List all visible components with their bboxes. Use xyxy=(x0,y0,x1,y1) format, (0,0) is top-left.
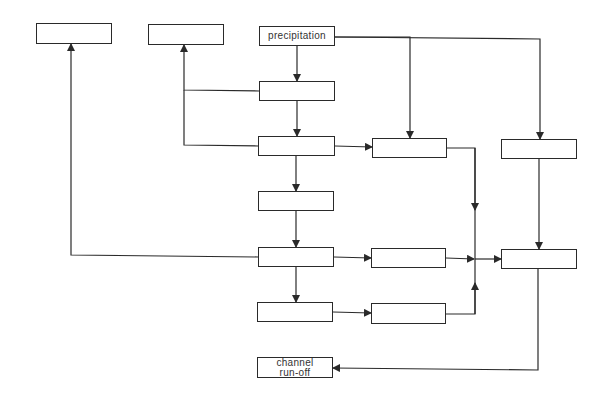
connector-precipitation-to-col3-row3 xyxy=(335,37,540,139)
node-col1-row4 xyxy=(258,191,334,211)
node-precipitation: precipitation xyxy=(259,26,335,46)
node-col1-row2 xyxy=(259,81,335,101)
connector-col2-row3-to-col3-row5 xyxy=(447,148,475,210)
node-col2-row6 xyxy=(371,303,446,324)
connector-precipitation-to-col2-row3 xyxy=(335,37,410,138)
flow-diagram: precipitationchannel run-off xyxy=(0,0,608,404)
node-label: channel run-off xyxy=(276,358,313,378)
connector-col1-row5-to-top-left-box xyxy=(71,44,258,257)
connector-col1-row5-to-col2-row5 xyxy=(334,257,371,258)
connector-col1-row2-to-top-mid-box xyxy=(184,45,259,91)
node-col2-row5 xyxy=(371,248,446,268)
node-col1-row6 xyxy=(257,302,333,322)
node-col3-row5 xyxy=(501,249,577,269)
node-channel-runoff: channel run-off xyxy=(257,357,333,378)
node-col3-row3 xyxy=(501,139,577,159)
connector-col2-row6-to-col3-row5 xyxy=(446,283,475,314)
node-col2-row3 xyxy=(372,138,447,158)
connector-col1-row6-to-col2-row6 xyxy=(333,312,371,313)
connector-col1-row3-to-top-mid-box xyxy=(184,90,258,146)
connector-col2-row5-to-col3-row5 xyxy=(446,258,474,259)
connector-col1-row3-to-col2-row3 xyxy=(335,146,372,147)
node-top-mid-box xyxy=(148,24,224,45)
node-col1-row3 xyxy=(258,136,335,156)
node-label: precipitation xyxy=(268,31,326,41)
node-top-left-box xyxy=(36,23,112,44)
node-col1-row5 xyxy=(258,247,334,267)
